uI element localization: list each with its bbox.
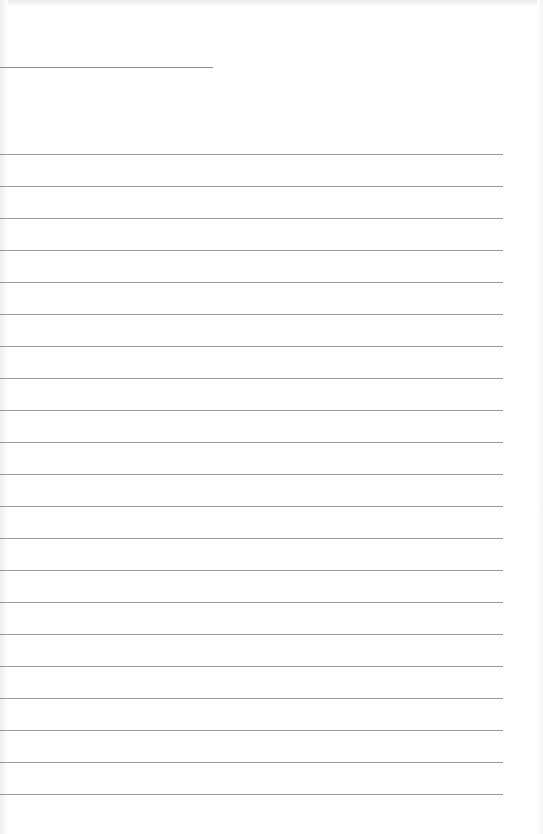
writing-line [0, 538, 503, 539]
writing-line [0, 442, 503, 443]
writing-line [0, 570, 503, 571]
writing-line [0, 314, 503, 315]
writing-line [0, 666, 503, 667]
writing-line [0, 154, 503, 155]
writing-line [0, 346, 503, 347]
writing-line [0, 218, 503, 219]
writing-line [0, 282, 503, 283]
writing-line [0, 186, 503, 187]
writing-line [0, 762, 503, 763]
writing-line [0, 474, 503, 475]
writing-line [0, 698, 503, 699]
scan-top-edge [0, 0, 543, 5]
writing-line [0, 250, 503, 251]
writing-line [0, 506, 503, 507]
writing-line [0, 410, 503, 411]
writing-line [0, 602, 503, 603]
writing-line [0, 794, 503, 795]
writing-line [0, 378, 503, 379]
header-field-line [0, 67, 213, 68]
writing-line [0, 634, 503, 635]
scan-right-edge [537, 0, 543, 834]
writing-line [0, 730, 503, 731]
scan-left-edge [0, 0, 8, 834]
